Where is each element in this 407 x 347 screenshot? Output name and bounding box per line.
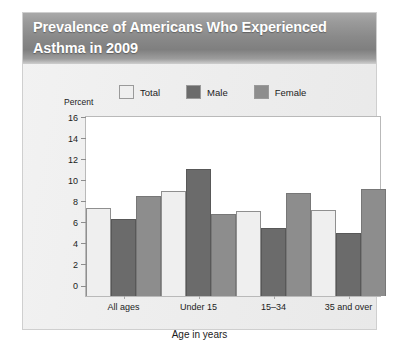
x-axis-tick-mark (199, 296, 200, 299)
bar (136, 196, 161, 296)
legend-item: Total (119, 85, 160, 99)
y-axis-tick-label: 0 (60, 281, 78, 291)
y-axis-tick-label: 10 (60, 176, 78, 186)
plot-inner: 0246810121416 All agesUnder 1515–3435 an… (86, 117, 380, 296)
bar (211, 214, 236, 296)
x-axis-tick-mark (124, 296, 125, 299)
legend-label: Female (275, 87, 307, 98)
legend-swatch-icon (119, 85, 134, 99)
y-axis-tick: 4 (60, 239, 86, 249)
legend-swatch-icon (254, 85, 269, 99)
y-axis-tick-label: 14 (60, 134, 78, 144)
chart-title-bar: Prevalence of Americans Who Experienced … (23, 13, 376, 64)
bar (86, 208, 111, 296)
y-axis-title: Percent (64, 97, 93, 107)
y-axis-tick: 14 (60, 134, 86, 144)
y-axis-tick: 12 (60, 155, 86, 165)
x-axis-tick-label: 35 and over (325, 302, 373, 312)
y-axis-tick-label: 2 (60, 260, 78, 270)
bar (336, 233, 361, 296)
bar (111, 219, 136, 296)
bar-group: 15–34 (236, 117, 311, 296)
y-axis-tick-label: 6 (60, 218, 78, 228)
bar (236, 211, 261, 296)
y-axis-tick-label: 4 (60, 239, 78, 249)
x-axis-tick-mark (349, 296, 350, 299)
y-axis-tick: 2 (60, 260, 86, 270)
bar (286, 193, 311, 296)
legend-label: Total (140, 87, 160, 98)
page-title: Prevalence of Americans Who Experienced … (33, 17, 368, 59)
bar-group: 35 and over (311, 117, 386, 296)
bar (161, 191, 186, 296)
legend-label: Male (207, 87, 228, 98)
x-axis-tick-label: All ages (107, 302, 139, 312)
y-axis-tick: 16 (60, 113, 86, 123)
legend-item: Female (254, 85, 307, 99)
y-axis-tick-label: 12 (60, 155, 78, 165)
y-axis-tick: 0 (60, 281, 86, 291)
chart-card: Prevalence of Americans Who Experienced … (22, 12, 377, 330)
bar (311, 210, 336, 296)
x-axis-tick-label: 15–34 (261, 302, 286, 312)
x-axis-tick-label: Under 15 (180, 302, 217, 312)
x-axis-tick-mark (274, 296, 275, 299)
legend-swatch-icon (186, 85, 201, 99)
bar-groups: All agesUnder 1515–3435 and over (86, 117, 380, 296)
y-axis-tick-label: 16 (60, 113, 78, 123)
chart-legend: TotalMaleFemale (119, 85, 306, 99)
bar-group: Under 15 (161, 117, 236, 296)
x-axis-title: Age in years (23, 329, 376, 340)
bar (361, 189, 386, 296)
y-axis-tick: 10 (60, 176, 86, 186)
bar (261, 228, 286, 296)
legend-item: Male (186, 85, 228, 99)
plot-area: 0246810121416 All agesUnder 1515–3435 an… (85, 116, 381, 297)
y-axis-tick: 6 (60, 218, 86, 228)
bar-group: All ages (86, 117, 161, 296)
y-axis-tick-label: 8 (60, 197, 78, 207)
y-axis-tick: 8 (60, 197, 86, 207)
bar (186, 169, 211, 296)
